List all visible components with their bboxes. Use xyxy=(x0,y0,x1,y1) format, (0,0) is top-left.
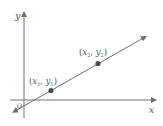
origin-label: O xyxy=(17,102,22,109)
diagram-svg: y x O (x1, y1) (x2, y2) xyxy=(0,0,163,126)
point-1-label: (x1, y1) xyxy=(29,76,57,87)
point-2-label: (x2, y2) xyxy=(79,47,107,58)
y-axis-label: y xyxy=(14,10,21,21)
x-axis-label: x xyxy=(149,105,154,115)
point-2-dot xyxy=(95,61,100,66)
point-1-dot xyxy=(48,88,53,93)
line-forward xyxy=(30,37,146,103)
line-through-two-points-diagram: y x O (x1, y1) (x2, y2) xyxy=(0,0,163,126)
